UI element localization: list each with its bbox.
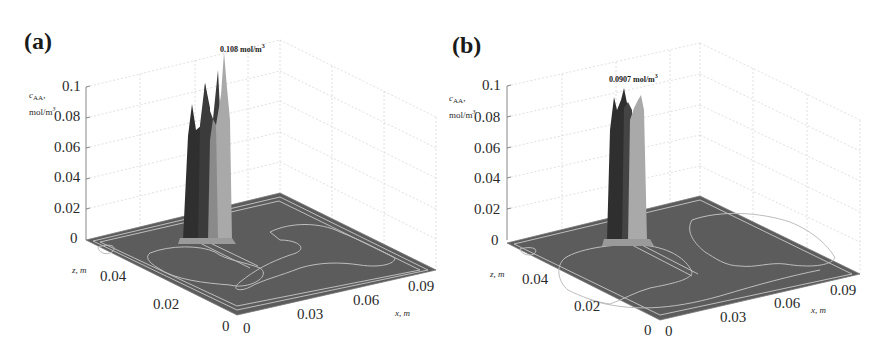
z-tick-0: 0 [70,230,78,247]
panel-label-a: (a) [24,28,52,55]
z-tick-0-08: 0.08 [474,109,500,126]
figure: (a) 0.108 mol/m3 cAA, mol/m3 0 0.02 0.04… [0,0,891,359]
depth-tick-0: 0 [644,322,652,339]
panel-b: (b) 0.0907 mol/m3 cAA, mol/m3 0 0.02 0.0… [430,0,875,359]
z-axis-title-a: cAA, mol/m3 [29,90,56,118]
panel-label-b: (b) [452,32,481,59]
peak-annotation-b: 0.0907 mol/m3 [609,73,658,84]
z-tick-0-06: 0.06 [474,140,500,157]
depth-tick-0-02: 0.02 [153,296,179,313]
depth-tick-0-04: 0.04 [522,271,548,288]
z-tick-0-04: 0.04 [474,170,500,187]
peak-annotation-a: 0.108 mol/m3 [220,43,265,54]
x-axis-title-a: x, m [395,308,410,318]
z-axis-ticks [507,85,511,209]
x-axis-title-b: x, m [811,305,826,315]
z-tick-0-1: 0.1 [482,77,501,94]
x-tick-0-03: 0.03 [720,309,746,326]
peak-cluster-a [178,52,236,244]
depth-tick-0-02: 0.02 [574,298,600,315]
depth-axis-title-a: z, m [72,265,87,275]
panel-a: (a) 0.108 mol/m3 cAA, mol/m3 0 0.02 0.04… [0,0,445,359]
z-axis-title-b: cAA, mol/m3 [449,93,476,121]
x-tick-0-06: 0.06 [774,295,800,312]
z-tick-0-1: 0.1 [62,78,81,95]
z-tick-0-02: 0.02 [54,200,80,217]
depth-tick-0-04: 0.04 [100,268,126,285]
x-tick-0: 0 [665,323,673,340]
x-tick-0-06: 0.06 [353,292,379,309]
peak-cluster-b [602,88,654,246]
depth-axis-title-b: z, m [490,269,505,279]
z-tick-0: 0 [491,232,499,249]
z-axis-ticks [86,86,90,209]
z-tick-0-08: 0.08 [54,108,80,125]
z-tick-0-02: 0.02 [474,201,500,218]
depth-tick-0: 0 [222,318,230,335]
z-tick-0-04: 0.04 [54,169,80,186]
x-tick-0-09: 0.09 [830,282,856,299]
x-tick-0: 0 [243,320,251,337]
x-tick-0-03: 0.03 [297,306,323,323]
z-tick-0-06: 0.06 [54,139,80,156]
surface-floor [86,193,436,315]
